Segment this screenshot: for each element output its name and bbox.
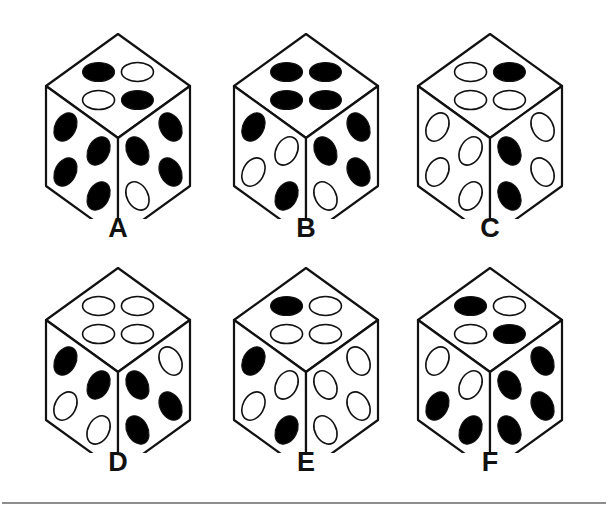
pip-hollow — [455, 325, 487, 344]
die-cube-a — [28, 24, 208, 219]
pip-filled — [455, 296, 487, 315]
die-label-e: E — [216, 446, 396, 478]
pip-filled — [309, 62, 341, 81]
pip-hollow — [493, 296, 525, 315]
die-label-b: B — [216, 212, 396, 244]
die-d: D — [28, 258, 208, 488]
pip-filled — [271, 296, 303, 315]
pip-filled — [271, 62, 303, 81]
die-f: F — [400, 258, 580, 488]
pip-hollow — [493, 91, 525, 110]
pip-hollow — [455, 91, 487, 110]
die-cube-d — [28, 258, 208, 453]
pip-filled — [83, 62, 115, 81]
die-a: A — [28, 24, 208, 254]
die-label-c: C — [400, 212, 580, 244]
die-cube-e — [216, 258, 396, 453]
pip-hollow — [83, 325, 115, 344]
die-cube-b — [216, 24, 396, 219]
pip-filled — [309, 91, 341, 110]
die-label-f: F — [400, 446, 580, 478]
die-label-a: A — [28, 212, 208, 244]
die-b: B — [216, 24, 396, 254]
pip-hollow — [271, 325, 303, 344]
die-label-d: D — [28, 446, 208, 478]
die-cube-f — [400, 258, 580, 453]
dice-figure: ABCDEF — [0, 0, 608, 515]
pip-hollow — [121, 296, 153, 315]
pip-hollow — [83, 296, 115, 315]
pip-filled — [121, 91, 153, 110]
die-e: E — [216, 258, 396, 488]
bottom-horizontal-rule — [2, 502, 606, 504]
pip-filled — [271, 91, 303, 110]
pip-filled — [493, 62, 525, 81]
pip-hollow — [121, 325, 153, 344]
pip-hollow — [83, 91, 115, 110]
pip-hollow — [309, 296, 341, 315]
pip-hollow — [455, 62, 487, 81]
pip-hollow — [121, 62, 153, 81]
die-c: C — [400, 24, 580, 254]
die-cube-c — [400, 24, 580, 219]
pip-filled — [493, 325, 525, 344]
pip-hollow — [309, 325, 341, 344]
